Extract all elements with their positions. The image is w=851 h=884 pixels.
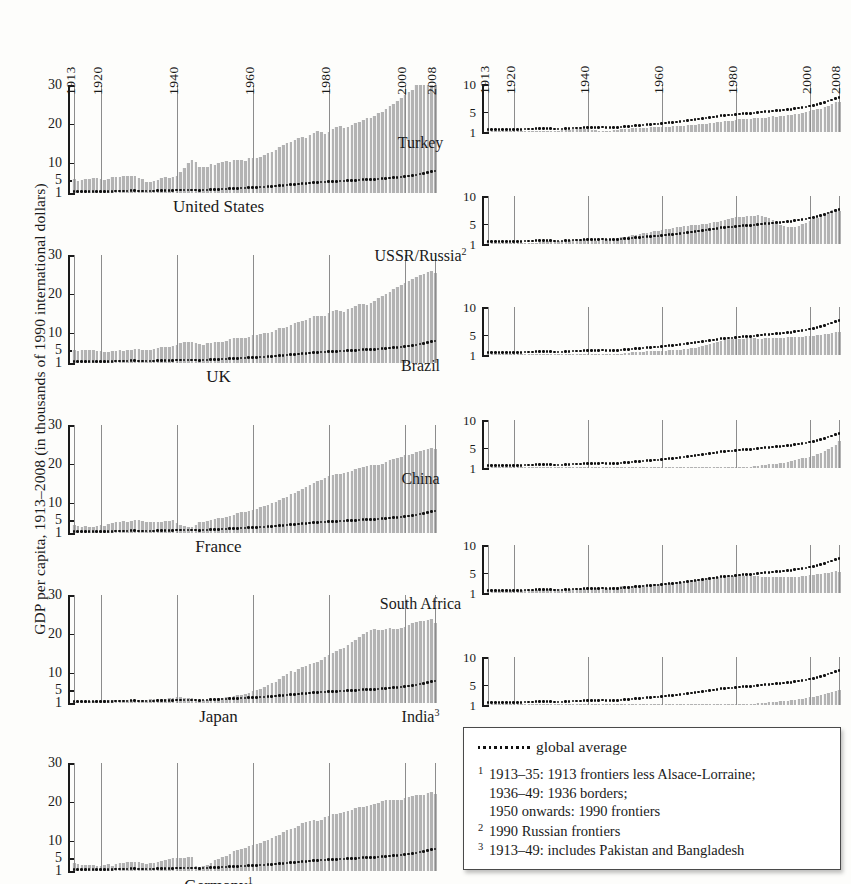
global-average-point — [549, 463, 552, 466]
global-average-point — [627, 698, 630, 701]
global-average-point — [760, 334, 763, 337]
global-average-point — [354, 857, 357, 860]
y-axis-tick — [68, 193, 75, 195]
y-axis-spine — [68, 763, 70, 871]
global-average-point — [723, 114, 726, 117]
year-gridline — [514, 196, 515, 244]
global-average-point — [609, 462, 612, 465]
global-average-point — [354, 179, 357, 182]
global-average-point — [426, 171, 429, 174]
global-average-point — [627, 461, 630, 464]
global-average-point — [801, 106, 804, 109]
global-average-point — [649, 346, 652, 349]
global-average-point — [756, 223, 759, 226]
global-average-point — [686, 119, 689, 122]
global-average-point — [764, 110, 767, 113]
global-average-point — [487, 351, 490, 354]
y-axis-tick — [68, 533, 75, 535]
global-average-point — [786, 108, 789, 111]
legend-series-row: global average — [478, 738, 828, 756]
legend-footnote-box: global average 11913–35: 1913 frontiers … — [463, 727, 841, 870]
global-average-point — [657, 123, 660, 126]
global-average-point — [527, 464, 530, 467]
global-average-point — [638, 460, 641, 463]
year-gridline — [810, 307, 811, 355]
global-average-point — [764, 683, 767, 686]
global-average-point — [819, 214, 822, 217]
global-average-point — [505, 701, 508, 704]
global-average-point — [812, 104, 815, 107]
global-average-point — [251, 864, 254, 867]
global-average-point — [738, 113, 741, 116]
global-average-point — [549, 700, 552, 703]
global-average-point — [819, 438, 822, 441]
global-average-point — [616, 349, 619, 352]
global-average-point — [583, 699, 586, 702]
global-average-point — [683, 120, 686, 123]
global-average-point — [712, 339, 715, 342]
global-average-point — [756, 572, 759, 575]
panel-caption: Brazil — [0, 357, 841, 375]
global-average-point — [631, 348, 634, 351]
global-average-point — [255, 864, 258, 867]
global-average-point — [549, 588, 552, 591]
global-average-point — [381, 177, 384, 180]
global-average-point — [430, 170, 433, 173]
global-average-point — [742, 685, 745, 688]
global-average-point — [775, 109, 778, 112]
global-average-point — [708, 116, 711, 119]
year-gridline — [839, 545, 840, 593]
global-average-point — [708, 689, 711, 692]
global-average-point — [738, 449, 741, 452]
y-axis-tick-label: 10 — [448, 190, 476, 203]
panel-caption-label: India — [402, 708, 435, 725]
global-average-point — [535, 350, 538, 353]
year-gridline — [588, 196, 589, 244]
panel-caption-footnote-mark: 1 — [248, 875, 253, 884]
global-average-point — [834, 320, 837, 323]
global-average-point — [267, 863, 270, 866]
global-average-point — [601, 462, 604, 465]
global-average-point — [760, 572, 763, 575]
global-average-point — [782, 445, 785, 448]
global-average-point — [683, 343, 686, 346]
global-average-point — [289, 183, 292, 186]
global-average-point — [490, 701, 493, 704]
global-average-point — [612, 349, 615, 352]
global-average-point — [553, 240, 556, 243]
global-average-point — [816, 439, 819, 442]
global-average-point — [305, 522, 308, 525]
global-average-point — [705, 117, 708, 120]
y-axis-tick — [68, 871, 75, 873]
global-average-point — [634, 347, 637, 350]
global-average-point — [720, 687, 723, 690]
global-average-point — [620, 462, 623, 465]
global-average-point — [749, 112, 752, 115]
global-average-point — [297, 523, 300, 526]
global-average-point — [346, 519, 349, 522]
global-average-point — [597, 238, 600, 241]
global-average-point — [634, 124, 637, 127]
global-average-point — [734, 225, 737, 228]
global-average-point — [568, 700, 571, 703]
global-average-point — [671, 121, 674, 124]
global-average-point — [152, 868, 155, 871]
year-gridline — [74, 763, 75, 871]
global-average-point — [490, 589, 493, 592]
global-average-point — [594, 699, 597, 702]
year-gridline — [810, 545, 811, 593]
global-average-point — [505, 464, 508, 467]
global-average-point — [646, 346, 649, 349]
global-average-point — [671, 694, 674, 697]
global-average-point — [779, 332, 782, 335]
global-average-point — [627, 586, 630, 589]
global-average-point — [422, 172, 425, 175]
chart-panel-brazil: 1051Brazil — [0, 307, 851, 389]
global-average-point — [494, 351, 497, 354]
global-average-point — [308, 860, 311, 863]
global-average-point — [642, 697, 645, 700]
year-gridline — [662, 420, 663, 468]
global-average-point — [590, 587, 593, 590]
global-average-point — [487, 589, 490, 592]
global-average-point — [812, 216, 815, 219]
